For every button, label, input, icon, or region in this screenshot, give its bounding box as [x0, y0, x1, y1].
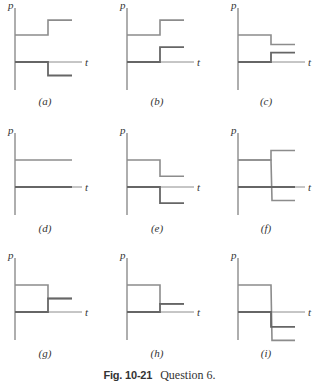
panel-label: (d): [39, 222, 52, 235]
momentum-line: [15, 62, 72, 76]
p-axis-label: p: [7, 124, 14, 136]
p-axis-label: p: [230, 0, 237, 11]
t-axis-label: t: [308, 181, 312, 193]
panel-label: (f): [261, 222, 272, 235]
figure-grid: ptptptptptptptptpt(a)(b)(c)(d)(e)(f)(g)(…: [0, 0, 319, 389]
momentum-line: [15, 285, 72, 299]
momentum-line: [127, 285, 184, 304]
t-axis-label: t: [197, 306, 201, 318]
panel-f: pt: [230, 124, 312, 215]
t-axis-label: t: [197, 181, 201, 193]
t-axis-label: t: [308, 306, 312, 318]
t-axis-label: t: [85, 56, 89, 68]
p-axis-label: p: [7, 0, 14, 11]
panel-label: (g): [39, 347, 52, 360]
momentum-line: [238, 160, 295, 201]
momentum-line: [238, 312, 295, 327]
p-axis-label: p: [230, 249, 237, 261]
momentum-line: [238, 35, 295, 44]
panel-label: (h): [151, 347, 164, 360]
panel-i: pt: [230, 249, 312, 340]
caption-text: Question 6.: [160, 368, 215, 382]
momentum-line: [15, 299, 72, 313]
panel-label: (b): [151, 95, 164, 108]
momentum-line: [127, 20, 184, 35]
panel-label: (i): [261, 347, 272, 360]
panel-c: pt: [230, 0, 312, 90]
momentum-line: [127, 47, 184, 62]
panel-label: (e): [151, 222, 164, 235]
caption-number: Fig. 10-21: [103, 369, 152, 381]
panel-e: pt: [119, 124, 201, 215]
p-axis-label: p: [119, 0, 126, 11]
t-axis-label: t: [85, 181, 89, 193]
momentum-line: [127, 160, 184, 176]
p-axis-label: p: [7, 249, 14, 261]
panel-label: (c): [260, 95, 273, 108]
panel-label: (a): [39, 95, 52, 108]
panel-b: pt: [119, 0, 201, 90]
momentum-line: [127, 187, 184, 203]
t-axis-label: t: [197, 56, 201, 68]
panel-a: pt: [7, 0, 89, 90]
panel-d: pt: [7, 124, 89, 215]
panel-h: pt: [119, 249, 201, 340]
p-axis-label: p: [119, 124, 126, 136]
t-axis-label: t: [85, 306, 89, 318]
p-axis-label: p: [119, 249, 126, 261]
panel-g: pt: [7, 249, 89, 340]
momentum-line: [238, 53, 295, 62]
momentum-line: [15, 20, 72, 35]
p-axis-label: p: [230, 124, 237, 136]
figure-caption: Fig. 10-21 Question 6.: [0, 368, 319, 383]
momentum-line: [238, 151, 295, 160]
t-axis-label: t: [308, 56, 312, 68]
momentum-line: [127, 304, 184, 312]
